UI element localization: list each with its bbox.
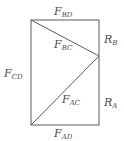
label-f-ac: FAC: [61, 93, 81, 107]
label-f-ad: FAD: [53, 127, 73, 141]
member-ac-diagonal: [31, 56, 99, 125]
label-r-b: RB: [103, 33, 117, 47]
truss-diagram: FBD FBC FCD FAC FAD RB RA: [0, 0, 124, 141]
label-f-bd: FBD: [53, 5, 73, 19]
label-f-cd: FCD: [3, 67, 23, 81]
frame-rectangle: [31, 20, 99, 125]
label-r-a: RA: [103, 96, 117, 110]
